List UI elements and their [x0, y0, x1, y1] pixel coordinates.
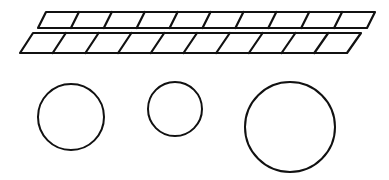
bottom-strip-divider	[151, 33, 164, 53]
circles-group	[38, 82, 335, 172]
top-strip-divider	[71, 12, 79, 28]
circle-large	[245, 82, 335, 172]
top-strip-divider	[170, 12, 178, 28]
bottom-strip-divider	[249, 33, 263, 53]
bottom-strip-divider	[118, 33, 131, 53]
top-strip-divider	[203, 12, 211, 28]
top-strip-divider	[104, 12, 112, 28]
diagram-canvas	[0, 0, 389, 180]
top-strip-divider	[137, 12, 145, 28]
bottom-strip-divider	[85, 33, 98, 53]
top-strip	[38, 12, 375, 28]
bottom-strip-divider	[53, 33, 66, 53]
circle-medium	[38, 84, 104, 150]
top-strip-divider	[301, 12, 309, 28]
bottom-strip-divider	[184, 33, 198, 53]
circle-small	[148, 82, 202, 136]
top-strip-divider	[235, 12, 243, 28]
top-strip-divider	[268, 12, 276, 28]
bottom-strip-divider	[314, 33, 328, 53]
bottom-strip	[20, 33, 361, 53]
top-strip-divider	[334, 12, 342, 28]
bottom-strip-divider	[282, 33, 296, 53]
parallelogram-strips	[20, 12, 375, 53]
bottom-strip-divider	[216, 33, 230, 53]
